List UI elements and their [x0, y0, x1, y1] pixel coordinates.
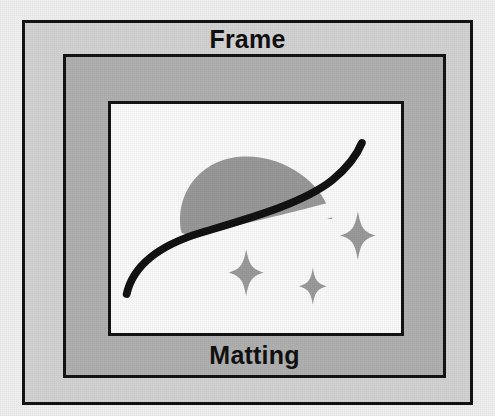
- sparkle-small-icon: [299, 268, 326, 305]
- artwork-illustration: [111, 104, 401, 333]
- artwork-region: [108, 101, 404, 336]
- matting-label: Matting: [66, 341, 443, 369]
- matting-region: Matting: [63, 54, 446, 378]
- frame-region: Frame Matting: [22, 20, 473, 405]
- sparkle-medium-icon: [229, 249, 264, 296]
- framed-artwork-diagram: Frame Matting: [0, 0, 495, 416]
- frame-label: Frame: [25, 25, 470, 53]
- sparkle-large-icon: [340, 211, 375, 260]
